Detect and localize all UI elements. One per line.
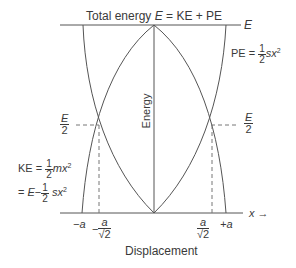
x-arrow-icon: → <box>258 207 269 219</box>
ke-formula-label: KE = 12mx2 <box>18 159 71 180</box>
ke-alt-formula-label: = E−12 sx2 <box>18 183 67 204</box>
ke-alt-suffix: sx <box>52 186 63 198</box>
ke-den: 2 <box>45 170 53 180</box>
pe-fraction: 12 <box>258 44 266 65</box>
half-e-right-den: 2 <box>244 124 253 135</box>
ke-alt-e: E <box>28 186 35 198</box>
ke-prefix: KE = <box>18 162 42 174</box>
half-energy-right-label: E2 <box>244 112 253 135</box>
title-equation: = KE + PE <box>166 9 222 23</box>
pe-prefix: PE = <box>231 47 255 59</box>
title-text: Total energy <box>86 9 151 23</box>
tick-neg-num: a <box>98 217 110 228</box>
pe-suffix: sx <box>266 47 277 59</box>
x-symbol: x <box>249 207 255 219</box>
x-axis-label: x → <box>249 207 269 219</box>
tick-pos-num: a <box>197 217 209 228</box>
ke-alt-den: 2 <box>41 194 49 204</box>
ke-exp: 2 <box>67 162 71 169</box>
ke-alt-prefix: = <box>18 186 24 198</box>
top-line-e-label: E <box>244 19 252 31</box>
tick-neg-a-root2: −a√2 <box>92 217 111 240</box>
tick-pos-a: +a <box>220 218 233 230</box>
energy-axis-label: Energy <box>140 91 152 131</box>
half-energy-left-label: E2 <box>60 113 69 136</box>
ke-suffix: mx <box>53 162 68 174</box>
pe-exp: 2 <box>277 47 281 54</box>
title-label: Total energy E = KE + PE <box>86 10 222 22</box>
pe-formula-label: PE = 12sx2 <box>231 44 281 65</box>
tick-pos-a-root2: a√2 <box>197 217 209 240</box>
half-e-left-den: 2 <box>60 125 69 136</box>
ke-alt-exp: 2 <box>63 186 67 193</box>
displacement-label: Displacement <box>125 245 198 257</box>
tick-neg-den: 2 <box>104 228 110 240</box>
pe-den: 2 <box>258 55 266 65</box>
title-e-symbol: E <box>155 9 163 23</box>
tick-neg-a: −a <box>73 218 86 230</box>
tick-pos-den: 2 <box>203 228 209 240</box>
